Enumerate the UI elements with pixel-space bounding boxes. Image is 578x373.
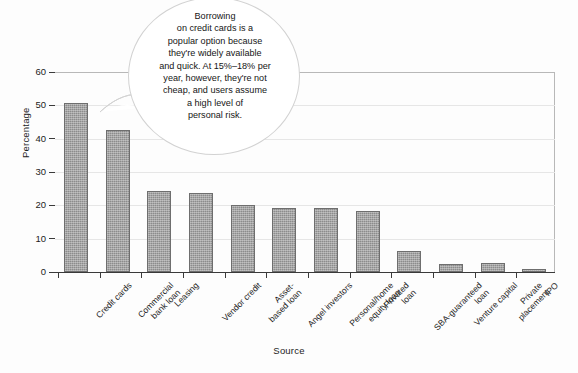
bar [231, 205, 255, 272]
x-tick-mark [183, 273, 184, 278]
x-tick-mark [475, 273, 476, 278]
bar [189, 193, 213, 272]
x-axis-line [54, 272, 555, 273]
x-tick-label: Credit cards [94, 281, 134, 321]
bar [106, 130, 130, 272]
x-tick-label: Asset-based loan [260, 281, 303, 324]
callout-text-line: on credit cards is a [141, 22, 289, 34]
y-tick-label-20: 20 [16, 199, 46, 210]
x-axis-title: Source [0, 345, 578, 356]
callout-text-line: popular option because [141, 35, 289, 47]
bar [272, 208, 296, 272]
y-tick-label-wrap: 30 [10, 166, 46, 178]
gridline-40 [55, 139, 555, 140]
x-tick-label-line: Credit cards [94, 281, 134, 321]
bar [147, 191, 171, 272]
gridline-10 [55, 239, 555, 240]
callout-text-line: year, however, they're not [141, 72, 289, 84]
y-tick-label-50: 50 [16, 99, 46, 110]
bar [397, 251, 421, 272]
x-tick-mark [433, 273, 434, 278]
gridline-30 [55, 172, 555, 173]
y-tick-label-40: 40 [16, 133, 46, 144]
y-tick-label-10: 10 [16, 233, 46, 244]
x-tick-label: Leasing [173, 281, 201, 309]
callout-text-line: cheap, and users assume [141, 84, 289, 96]
bar [439, 264, 463, 272]
bar [481, 263, 505, 272]
bar-chart-figure: Percentage 60 50 40 30 20 10 0 S [0, 0, 578, 373]
x-tick-label-line: Leasing [173, 281, 201, 309]
y-tick-label-60: 60 [16, 66, 46, 77]
y-tick-label-30: 30 [16, 166, 46, 177]
y-tick-label-0: 0 [16, 266, 46, 277]
x-tick-label: Vendor credit [221, 281, 264, 324]
x-tick-label-line: Vendor credit [221, 281, 264, 324]
gridline-20 [55, 205, 555, 206]
y-tick-label-wrap: 20 [10, 199, 46, 211]
callout-text-line: Borrowing [141, 10, 289, 22]
y-tick-label-wrap: 50 [10, 99, 46, 111]
y-tick-label-wrap: 0 [10, 266, 46, 278]
callout-text-line: personal risk. [141, 109, 289, 121]
callout-text-line: and quick. At 15%–18% per [141, 60, 289, 72]
bar [314, 208, 338, 272]
x-tick-mark [100, 273, 101, 278]
credit-cards-callout: Borrowingon credit cards is apopular opt… [128, 0, 300, 155]
y-tick-label-wrap: 40 [10, 133, 46, 145]
callout-text: Borrowingon credit cards is apopular opt… [141, 10, 289, 122]
x-tick-mark [225, 273, 226, 278]
callout-text-line: they're widely available [141, 47, 289, 59]
x-tick-mark [350, 273, 351, 278]
x-tick-mark [58, 273, 59, 278]
x-tick-mark [308, 273, 309, 278]
x-tick-mark [391, 273, 392, 278]
y-tick-label-wrap: 10 [10, 233, 46, 245]
callout-text-line: a high level of [141, 97, 289, 109]
x-tick-mark [141, 273, 142, 278]
bar [356, 211, 380, 272]
y-tick-label-wrap: 60 [10, 66, 46, 78]
x-tick-mark [516, 273, 517, 278]
x-tick-mark [266, 273, 267, 278]
bar [64, 103, 88, 272]
